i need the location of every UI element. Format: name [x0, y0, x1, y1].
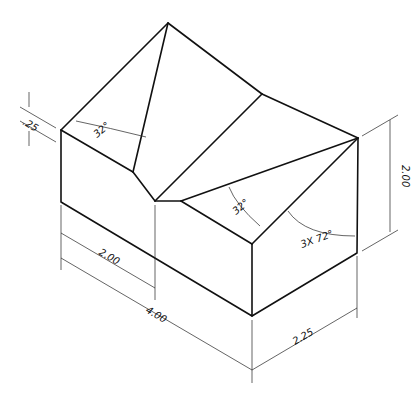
svg-text:2.25: 2.25 [291, 326, 316, 347]
svg-text:32°: 32° [91, 120, 112, 140]
roof-ridge [168, 23, 262, 94]
roof-left-edge [61, 23, 168, 130]
dim-right-angle: 32° [229, 187, 260, 226]
svg-text:2.00: 2.00 [400, 165, 411, 187]
svg-text:32°: 32° [230, 197, 251, 217]
svg-text:4.00: 4.00 [144, 304, 169, 325]
svg-text:2.00: 2.00 [97, 246, 122, 267]
dim-length: 4.00 [61, 258, 252, 383]
front-top-edge [252, 138, 358, 244]
isometric-drawing: .25 32° 32° 3X 72° 2.00 2.00 4.00 2.2 [0, 0, 417, 401]
notch-left [133, 172, 155, 201]
dim-repeat-angle: 3X 72° [288, 211, 355, 250]
dim-height: 2.00 [362, 115, 411, 251]
dim-left-angle: 32° [76, 120, 146, 140]
dim-depth: 2.25 [252, 256, 357, 370]
roof-crease [155, 94, 262, 201]
roof-valley-left [133, 23, 168, 172]
object-outline [61, 23, 358, 316]
dim-thickness: .25 [20, 92, 56, 146]
front-left-face [61, 130, 252, 316]
roof-right-edge [262, 94, 358, 138]
